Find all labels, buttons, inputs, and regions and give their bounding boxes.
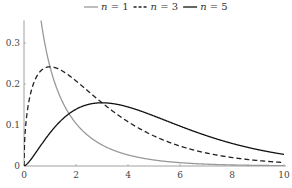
legend-label-n3: n = 3 <box>151 1 179 12</box>
x-tick-label: 6 <box>177 170 183 180</box>
x-tick-label: 8 <box>229 170 235 180</box>
x-tick-label: 0 <box>21 170 27 180</box>
x-tick-label: 4 <box>125 170 131 180</box>
x-tick-label: 2 <box>73 170 79 180</box>
legend: n = 1n = 3n = 5 <box>84 1 228 12</box>
axes: 024681000.10.20.3 <box>6 20 290 180</box>
legend-label-n5: n = 5 <box>200 1 228 12</box>
y-tick-label: 0 <box>14 161 20 171</box>
x-tick-label: 10 <box>278 170 290 180</box>
y-tick-label: 0.2 <box>6 79 20 89</box>
series-line-n1 <box>25 0 284 166</box>
curves <box>24 0 284 166</box>
legend-label-n1: n = 1 <box>101 1 129 12</box>
y-tick-label: 0.1 <box>6 120 20 130</box>
y-tick-label: 0.3 <box>6 38 21 48</box>
chart: 024681000.10.20.3 n = 1n = 3n = 5 <box>0 0 292 188</box>
series-line-n5 <box>24 103 284 166</box>
